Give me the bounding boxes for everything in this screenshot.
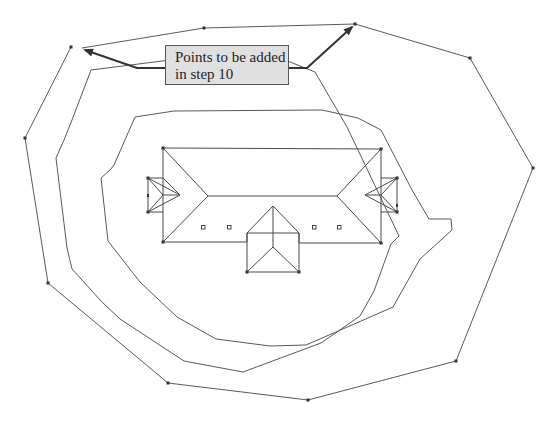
roof-hip xyxy=(163,148,208,196)
roof-hip xyxy=(337,196,381,243)
roof-vent-icon xyxy=(228,226,232,230)
roof-corner-vertex xyxy=(162,147,165,150)
roof-hip xyxy=(163,196,208,242)
callout-text-line-1: Points to be added xyxy=(175,49,288,66)
roof-vent-icon xyxy=(313,226,317,230)
inner-contour-line xyxy=(101,110,452,346)
roof-plan xyxy=(147,147,399,274)
callout-arrow-right xyxy=(289,27,352,68)
middle-contour-line xyxy=(56,52,399,372)
callout-box: Points to be added in step 10 xyxy=(165,45,289,85)
roof-corner-vertex xyxy=(162,241,165,244)
callout-text-line-2: in step 10 xyxy=(175,66,288,83)
roof-vent-icon xyxy=(202,226,206,230)
front-gable xyxy=(246,206,301,274)
right-dormer xyxy=(365,177,399,214)
roof-corner-vertex xyxy=(380,242,383,245)
roof-vent-icon xyxy=(338,226,342,230)
roof-hip xyxy=(337,149,381,196)
roof-corner-vertex xyxy=(380,148,383,151)
